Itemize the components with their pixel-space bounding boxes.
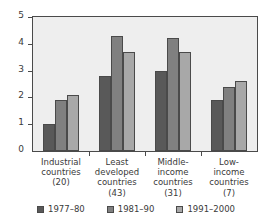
x-axis-group-label: Leastdevelopedcountries(43) [89, 157, 145, 198]
x-axis-tick-mark [201, 152, 202, 156]
bar [67, 95, 79, 151]
x-axis-group-label-line: countries [201, 177, 257, 187]
x-axis-group-label: Industrialcountries(20) [33, 157, 89, 188]
bar-group [33, 17, 89, 151]
y-axis-tick-label: 2 [18, 91, 24, 100]
y-axis: 012345 [0, 0, 32, 168]
grouped-bar-chart: 012345 Industrialcountries(20)Leastdevel… [0, 0, 272, 224]
bar [223, 87, 235, 151]
bar [99, 76, 111, 151]
x-axis-group-label-line: (31) [145, 188, 201, 198]
bar [179, 52, 191, 151]
bar-group [89, 17, 145, 151]
legend-label: 1991–2000 [187, 205, 235, 214]
x-axis-group-label-line: Middle- [145, 157, 201, 167]
bar [55, 100, 67, 151]
bars-layer [33, 17, 257, 151]
bar [211, 100, 223, 151]
legend-swatch-icon [107, 206, 114, 213]
legend-item: 1991–2000 [176, 205, 235, 214]
legend-label: 1981–90 [118, 205, 155, 214]
x-axis-group-label-line: countries [145, 177, 201, 187]
legend-item: 1981–90 [107, 205, 155, 214]
x-axis-group-label: Middle-incomecountries(31) [145, 157, 201, 198]
bar [43, 124, 55, 151]
bar [235, 81, 247, 151]
bar [155, 71, 167, 151]
legend-item: 1977–80 [37, 205, 85, 214]
x-axis-group-label-line: Industrial [33, 157, 89, 167]
legend-swatch-icon [176, 206, 183, 213]
y-axis-tick-label: 3 [18, 65, 24, 74]
bar-group [201, 17, 257, 151]
bar [123, 52, 135, 151]
x-axis-group-label-line: countries [89, 177, 145, 187]
x-axis: Industrialcountries(20)Leastdevelopedcou… [32, 152, 258, 200]
bar [167, 38, 179, 151]
y-axis-tick-label: 1 [18, 118, 24, 127]
chart-legend: 1977–801981–901991–2000 [0, 202, 272, 216]
x-axis-group-label-line: (43) [89, 188, 145, 198]
y-axis-tick-label: 5 [18, 11, 24, 20]
x-axis-group-label-line: Least [89, 157, 145, 167]
y-axis-tick-label: 0 [18, 145, 24, 154]
x-axis-group-label-line: (20) [33, 177, 89, 187]
y-axis-tick-label: 4 [18, 38, 24, 47]
x-axis-group-label-line: developed [89, 167, 145, 177]
x-axis-group-label-line: Low- [201, 157, 257, 167]
x-axis-group-label-line: (7) [201, 188, 257, 198]
x-axis-group-label-line: income [145, 167, 201, 177]
x-axis-tick-mark [89, 152, 90, 156]
legend-label: 1977–80 [48, 205, 85, 214]
x-axis-group-label: Low-incomecountries(7) [201, 157, 257, 198]
x-axis-group-label-line: income [201, 167, 257, 177]
bar-group [145, 17, 201, 151]
x-axis-group-label-line: countries [33, 167, 89, 177]
x-axis-tick-mark [145, 152, 146, 156]
legend-swatch-icon [37, 206, 44, 213]
bar [111, 36, 123, 151]
